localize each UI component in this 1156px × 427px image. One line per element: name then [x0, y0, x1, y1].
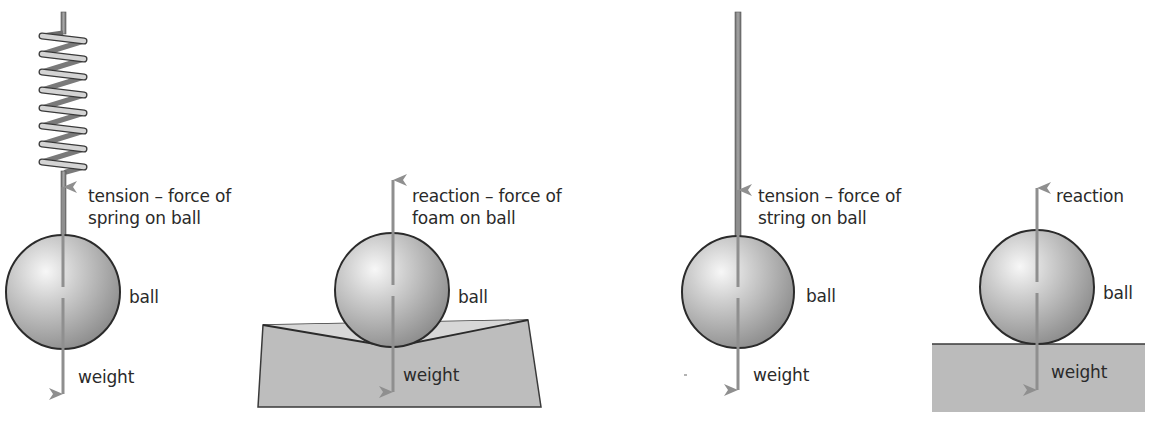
ball-label: ball — [129, 287, 159, 308]
ball-label: ball — [806, 286, 836, 307]
tension-label-line1: tension – force of — [758, 186, 901, 207]
tension-label-line2: spring on ball — [88, 208, 201, 229]
reaction-label-line1: reaction – force of — [412, 186, 562, 207]
tension-label-line2: string on ball — [758, 208, 867, 229]
weight-label: weight — [78, 367, 134, 388]
weight-label: weight — [403, 365, 459, 386]
reaction-label: reaction — [1056, 186, 1124, 207]
weight-label: weight — [753, 365, 809, 386]
tension-label-line1: tension – force of — [88, 186, 231, 207]
ball-label: ball — [458, 287, 488, 308]
ball-label: ball — [1103, 283, 1133, 304]
weight-label: weight — [1051, 362, 1107, 383]
reaction-label-line2: foam on ball — [412, 208, 516, 229]
